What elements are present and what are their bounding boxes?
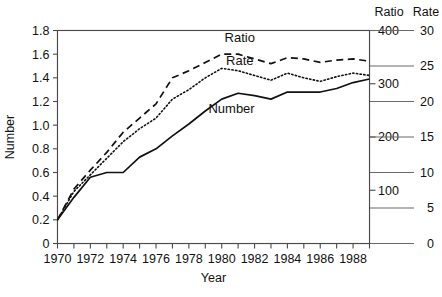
- x-tick-label: 1976: [142, 252, 170, 266]
- rate-axis-tick-label: 10: [420, 166, 434, 180]
- y-tick-label: 0.8: [32, 142, 49, 156]
- rate-axis-tick-label: 15: [420, 130, 434, 144]
- y-tick-label: 0.6: [32, 166, 49, 180]
- rate-axis-header: Rate: [413, 5, 439, 19]
- line-chart: 00.20.40.60.81.01.21.41.61.8Number197019…: [0, 0, 442, 297]
- y-tick-label: 0.4: [32, 190, 49, 204]
- y-tick-label: 1.6: [32, 48, 49, 62]
- y-tick-label: 1.4: [32, 71, 49, 85]
- rate-axis-tick-label: 20: [420, 95, 434, 109]
- x-tick-label: 1974: [109, 252, 137, 266]
- rate-axis-tick-label: 25: [420, 59, 434, 73]
- rate-axis-tick-label: 0: [427, 237, 434, 251]
- x-tick-label: 1988: [339, 252, 367, 266]
- series-label-ratio: Ratio: [225, 30, 255, 45]
- chart-container: 00.20.40.60.81.01.21.41.61.8Number197019…: [0, 0, 442, 297]
- x-tick-label: 1978: [175, 252, 203, 266]
- x-tick-label: 1986: [306, 252, 334, 266]
- y-tick-label: 1.2: [32, 95, 49, 109]
- series-label-number: Number: [208, 101, 255, 116]
- ratio-axis-tick-label: 100: [378, 184, 399, 198]
- y-tick-label: 0: [43, 237, 50, 251]
- y-tick-label: 1.8: [32, 24, 49, 38]
- ratio-axis-header: Ratio: [374, 5, 403, 19]
- x-tick-label: 1980: [208, 252, 236, 266]
- y-tick-label: 1.0: [32, 119, 49, 133]
- series-label-rate: Rate: [226, 53, 253, 68]
- x-tick-label: 1972: [76, 252, 104, 266]
- x-axis-title: Year: [201, 271, 226, 285]
- plot-interior-mask: [58, 31, 369, 243]
- rate-axis-tick-label: 5: [427, 201, 434, 215]
- y-axis-title: Number: [3, 115, 17, 159]
- ratio-axis-tick-label: 300: [378, 77, 399, 91]
- x-tick-label: 1984: [273, 252, 301, 266]
- x-tick-label: 1970: [44, 252, 72, 266]
- x-tick-label: 1982: [241, 252, 269, 266]
- rate-axis-tick-label: 30: [420, 24, 434, 38]
- y-tick-label: 0.2: [32, 213, 49, 227]
